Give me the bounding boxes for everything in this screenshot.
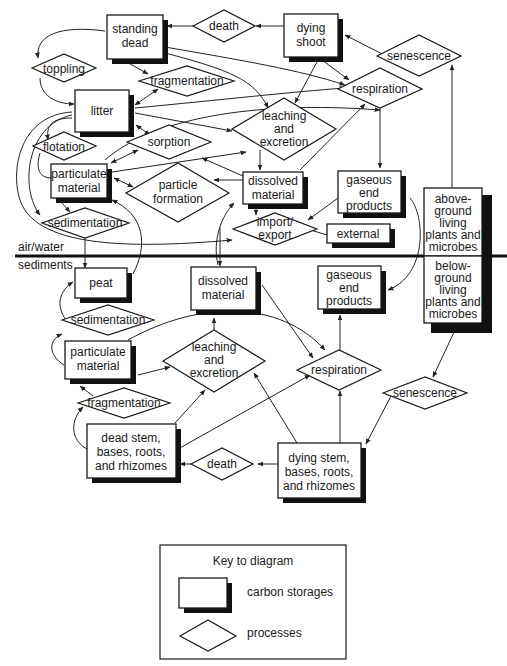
storage-dissolved-material-lower: dissolved material <box>191 267 261 315</box>
svg-text:products: products <box>326 294 372 308</box>
storage-dissolved-material-upper: dissolved material <box>243 172 308 209</box>
process-sorption: sorption <box>127 125 211 159</box>
svg-text:dissolved: dissolved <box>198 274 248 288</box>
svg-text:shoot: shoot <box>296 35 326 49</box>
svg-text:formation: formation <box>153 192 203 206</box>
svg-text:gaseous: gaseous <box>326 268 371 282</box>
svg-text:fragmentation: fragmentation <box>87 396 160 410</box>
svg-text:sedimentation: sedimentation <box>71 313 146 327</box>
svg-text:external: external <box>337 227 380 241</box>
svg-text:respiration: respiration <box>352 82 408 96</box>
svg-text:dying: dying <box>297 21 326 35</box>
storage-below-ground-living: below- ground living plants and microbes <box>424 256 482 323</box>
storage-gaseous-end-products-lower: gaseous end products <box>318 266 386 314</box>
svg-text:material: material <box>252 188 295 202</box>
key-storage-label: carbon storages <box>247 585 333 599</box>
svg-text:litter: litter <box>91 104 114 118</box>
svg-text:bases, roots,: bases, roots, <box>97 445 166 459</box>
storage-external: external <box>327 224 395 248</box>
process-fragmentation-upper: fragmentation <box>139 66 234 96</box>
process-sedimentation-upper: sedimentation <box>42 208 129 238</box>
storage-particulate-material-upper: particulate material <box>51 164 112 203</box>
svg-text:material: material <box>77 359 120 373</box>
svg-text:fragmentation: fragmentation <box>150 74 223 88</box>
svg-text:dead stem,: dead stem, <box>101 431 160 445</box>
svg-text:leaching: leaching <box>262 109 307 123</box>
svg-text:dying stem,: dying stem, <box>288 451 349 465</box>
key-title: Key to diagram <box>213 554 294 568</box>
svg-text:end: end <box>339 281 359 295</box>
svg-text:excretion: excretion <box>190 366 239 380</box>
storage-peat: peat <box>75 268 132 303</box>
svg-text:toppling: toppling <box>43 62 85 76</box>
svg-text:and rhizomes: and rhizomes <box>283 479 355 493</box>
svg-text:microbes: microbes <box>429 240 478 254</box>
svg-text:sedimentation: sedimentation <box>48 216 123 230</box>
svg-text:leaching: leaching <box>192 340 237 354</box>
svg-text:standing: standing <box>112 22 157 36</box>
svg-text:dead: dead <box>122 36 149 50</box>
storage-dying-stem-bases-roots-rhizomes: dying stem, bases, roots, and rhizomes <box>278 443 366 503</box>
storage-litter: litter <box>75 90 134 137</box>
svg-text:microbes: microbes <box>429 307 478 321</box>
svg-text:particle: particle <box>159 178 198 192</box>
svg-text:material: material <box>202 288 245 302</box>
process-particle-formation: particle formation <box>126 163 229 222</box>
diagram-key: Key to diagram carbon storages processes <box>160 545 346 659</box>
svg-text:sorption: sorption <box>148 135 191 149</box>
svg-text:senescence: senescence <box>387 49 451 63</box>
svg-text:peat: peat <box>89 276 113 290</box>
storage-particulate-material-lower: particulate material <box>65 341 136 384</box>
svg-text:end: end <box>359 186 379 200</box>
process-fragmentation-lower: fragmentation <box>78 388 170 418</box>
svg-text:and rhizomes: and rhizomes <box>95 459 167 473</box>
svg-text:senescence: senescence <box>393 386 457 400</box>
svg-text:respiration: respiration <box>311 363 367 377</box>
svg-text:and: and <box>204 353 224 367</box>
process-respiration-upper: respiration <box>338 68 422 108</box>
key-process-label: processes <box>247 626 302 640</box>
process-leaching-excretion-lower: leaching and excretion <box>163 330 265 392</box>
svg-text:gaseous: gaseous <box>346 173 391 187</box>
process-sedimentation-lower: sedimentation <box>62 305 154 335</box>
process-death-upper: death <box>193 10 255 42</box>
process-import-export: import/ export <box>233 213 317 245</box>
process-senescence-lower: senescence <box>383 377 467 409</box>
svg-text:products: products <box>346 199 392 213</box>
zone-label-air-water: air/water <box>18 240 64 254</box>
storage-dying-shoot: dying shoot <box>284 14 343 62</box>
svg-text:particulate: particulate <box>70 345 126 359</box>
storage-dead-stem-bases-roots-rhizomes: dead stem, bases, roots, and rhizomes <box>87 424 181 483</box>
svg-text:and: and <box>274 122 294 136</box>
storage-standing-dead: standing dead <box>107 15 168 64</box>
svg-text:material: material <box>58 181 101 195</box>
svg-text:flotation: flotation <box>43 140 85 154</box>
carbon-flow-diagram: air/water sediments standing dead dying … <box>0 0 507 666</box>
svg-text:death: death <box>207 457 237 471</box>
svg-text:export: export <box>258 228 292 242</box>
process-respiration-lower: respiration <box>297 350 381 390</box>
svg-text:excretion: excretion <box>260 135 309 149</box>
process-senescence-upper: senescence <box>377 35 461 76</box>
svg-text:particulate: particulate <box>51 167 107 181</box>
svg-text:death: death <box>209 19 239 33</box>
storage-gaseous-end-products-upper: gaseous end products <box>338 171 406 218</box>
process-death-lower: death <box>191 448 253 480</box>
process-toppling: toppling <box>32 54 96 82</box>
svg-text:import/: import/ <box>257 215 294 229</box>
svg-text:dissolved: dissolved <box>248 174 298 188</box>
key-storage-symbol <box>179 578 232 613</box>
zone-label-sediments: sediments <box>18 258 73 272</box>
svg-text:bases, roots,: bases, roots, <box>285 465 354 479</box>
